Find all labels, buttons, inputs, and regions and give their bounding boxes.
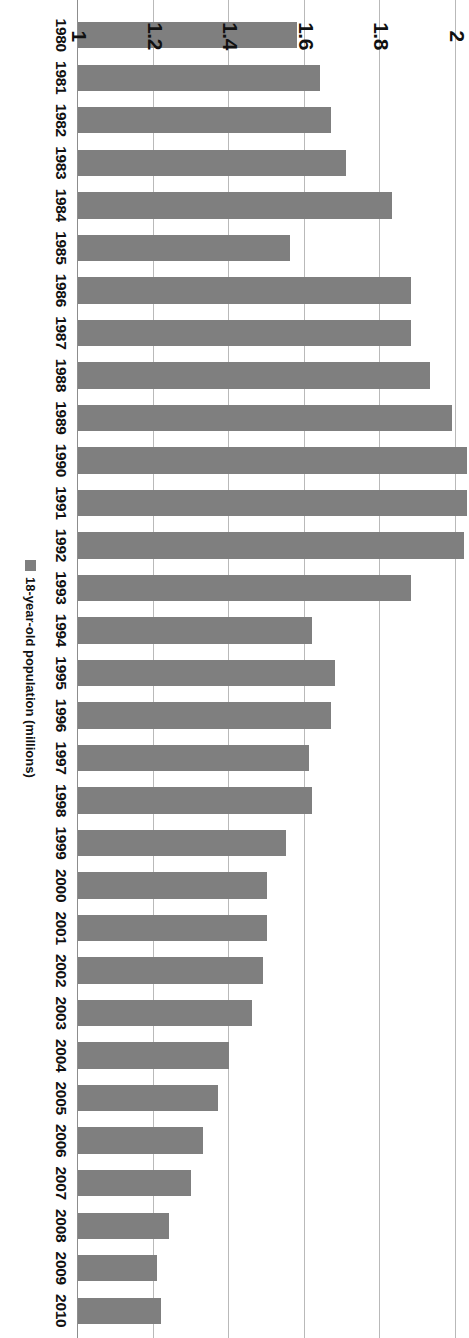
bar (78, 447, 467, 473)
bar (78, 1000, 252, 1026)
bar (78, 405, 452, 431)
bar (78, 320, 411, 346)
bar (78, 1213, 169, 1239)
category-label: 2010 (52, 1281, 70, 1338)
bar (78, 65, 320, 91)
value-tick-label: 1.6 (294, 6, 318, 66)
legend-swatch-icon (25, 560, 36, 571)
value-tick-label: 1.8 (369, 6, 393, 66)
legend-label: 18-year-old population (millions) (23, 577, 38, 778)
bar (78, 957, 263, 983)
bar (78, 532, 464, 558)
bar (78, 1255, 157, 1281)
bar (78, 745, 309, 771)
bar (78, 277, 411, 303)
gridline (455, 0, 456, 1338)
bar (78, 830, 286, 856)
bar (78, 660, 335, 686)
bar (78, 702, 331, 728)
bar (78, 490, 467, 516)
bar (78, 22, 297, 48)
bar (78, 1298, 161, 1324)
bar (78, 915, 267, 941)
value-tick-label: 1.2 (143, 6, 167, 66)
chart-legend: 18-year-old population (millions) (23, 560, 38, 778)
bar (78, 150, 346, 176)
bar (78, 872, 267, 898)
bar (78, 1127, 203, 1153)
bar (78, 107, 331, 133)
plot-area (66, 0, 456, 1338)
bar (78, 235, 290, 261)
bar (78, 192, 392, 218)
bar (78, 617, 312, 643)
bar (78, 575, 411, 601)
value-tick-label: 2 (445, 6, 469, 66)
bar (78, 362, 430, 388)
value-tick-label: 1.4 (218, 6, 242, 66)
bar (78, 1170, 191, 1196)
bar (78, 1085, 218, 1111)
value-tick-label: 1 (67, 6, 91, 66)
bar (78, 1042, 229, 1068)
bar (78, 787, 312, 813)
